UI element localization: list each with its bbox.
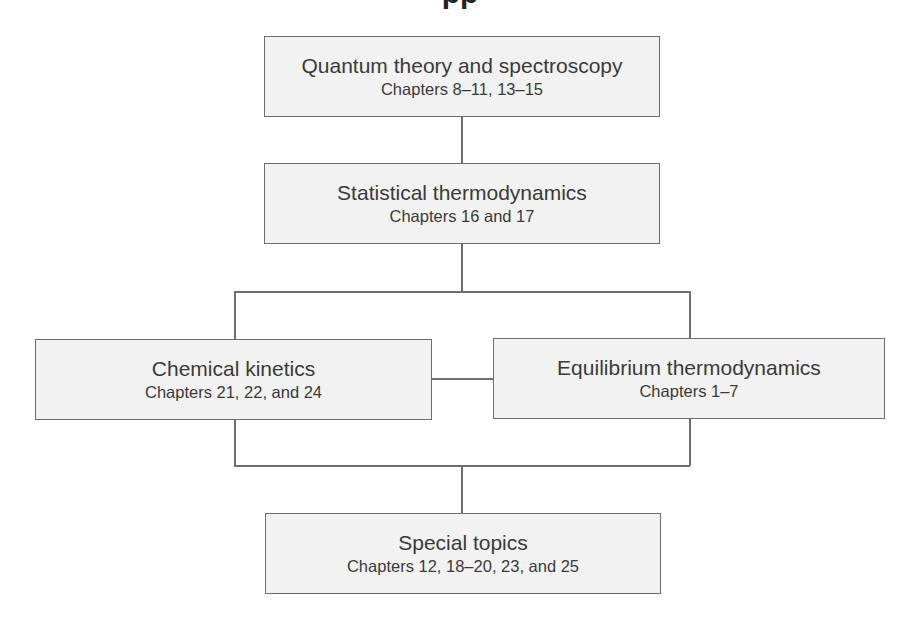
node-title: Quantum theory and spectroscopy (301, 53, 622, 79)
node-statistical-thermodynamics: Statistical thermodynamics Chapters 16 a… (264, 163, 660, 244)
node-title: Equilibrium thermodynamics (557, 355, 821, 381)
node-title: Chemical kinetics (152, 356, 315, 382)
node-title: Statistical thermodynamics (337, 180, 587, 206)
node-special-topics: Special topics Chapters 12, 18–20, 23, a… (265, 513, 661, 594)
node-subtitle: Chapters 12, 18–20, 23, and 25 (347, 556, 579, 577)
connector-special-drop (461, 465, 463, 513)
node-subtitle: Chapters 1–7 (639, 381, 738, 402)
node-quantum-theory: Quantum theory and spectroscopy Chapters… (264, 36, 660, 117)
connector-top-right-drop (689, 291, 691, 338)
connector-bottom-right-rise (689, 418, 691, 466)
node-title: Special topics (398, 530, 528, 556)
connector-bottom-left-rise (234, 419, 236, 466)
connector-kinetics-equilibrium (431, 378, 493, 380)
node-subtitle: Chapters 16 and 17 (390, 206, 535, 227)
connector-top-bar (234, 291, 690, 293)
connector-quantum-statistical (461, 116, 463, 163)
node-equilibrium-thermodynamics: Equilibrium thermodynamics Chapters 1–7 (493, 338, 885, 419)
connector-statistical-branch (461, 243, 463, 291)
page-title-fragment: pp (380, 0, 540, 8)
node-subtitle: Chapters 8–11, 13–15 (381, 79, 543, 100)
node-subtitle: Chapters 21, 22, and 24 (145, 382, 322, 403)
connector-top-left-drop (234, 291, 236, 339)
node-chemical-kinetics: Chemical kinetics Chapters 21, 22, and 2… (35, 339, 432, 420)
